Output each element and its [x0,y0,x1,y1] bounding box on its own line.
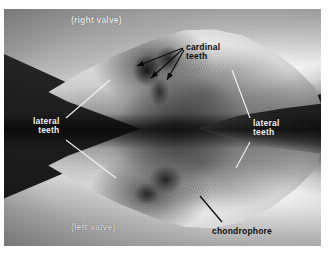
label-cardinal-teeth: cardinal teeth [186,43,220,61]
label-chondrophore: chondrophore [212,227,272,236]
label-left-valve: (left valve) [71,223,115,232]
figure-root: (right valve) cardinal teeth lateral tee… [0,0,335,260]
label-right-valve: (right valve) [71,16,122,25]
label-lateral-teeth-right: lateral teeth [253,119,279,137]
label-lateral-teeth-left: lateral teeth [33,117,59,135]
